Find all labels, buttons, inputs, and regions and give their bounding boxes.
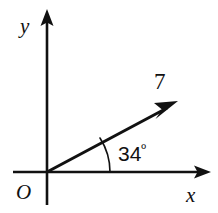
origin-label: O [16,180,31,204]
angle-value: 34 [118,142,142,165]
x-axis-label: x [185,183,196,207]
degree-symbol-icon: º [141,141,146,156]
magnitude-label: 7 [154,69,166,94]
vector-diagram: y x O 7 34º [0,0,218,213]
y-axis-label: y [18,14,30,38]
vector-shaft [47,108,167,172]
angle-label: 34º [118,141,146,165]
vector-arrowhead [154,101,178,119]
diagram-canvas: y x O 7 34º [0,0,218,213]
